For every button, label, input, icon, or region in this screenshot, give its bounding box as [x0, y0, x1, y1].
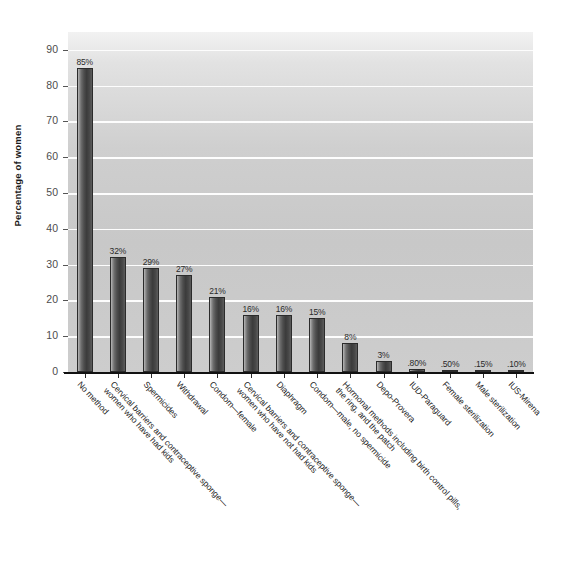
bar-value-label: .15% [474, 359, 493, 369]
x-axis-tick-label: No method [75, 380, 110, 417]
gridline [68, 157, 533, 159]
bar-value-label: 32% [110, 246, 126, 256]
bar-value-label: .10% [507, 359, 526, 369]
bar [342, 343, 358, 372]
bar [110, 257, 126, 372]
y-axis-tick-mark [63, 193, 68, 194]
x-axis-tick-mark [417, 374, 418, 378]
bar-value-label: .50% [441, 359, 460, 369]
x-axis-tick-mark [118, 374, 119, 378]
bar-chart: Percentage of women 0102030405060708090 … [0, 0, 575, 570]
x-axis-tick-mark [151, 374, 152, 378]
gridline [68, 300, 533, 302]
bar [409, 369, 425, 372]
y-axis-tick-label: 60 [0, 150, 58, 162]
y-axis-tick-label: 20 [0, 293, 58, 305]
y-axis-tick-mark [63, 265, 68, 266]
x-axis-tick-mark [251, 374, 252, 378]
y-axis-tick-mark [63, 121, 68, 122]
bar [309, 318, 325, 372]
x-axis-tick-mark [184, 374, 185, 378]
y-axis-tick-mark [63, 86, 68, 87]
bar-value-label: 3% [378, 350, 390, 360]
y-axis-tick-mark [63, 157, 68, 158]
y-axis-tick-mark [63, 50, 68, 51]
y-axis-tick-label: 40 [0, 222, 58, 234]
y-axis-tick-label: 30 [0, 258, 58, 270]
x-axis-tick-mark [450, 374, 451, 378]
x-axis-tick-label: Withdrawal [174, 380, 209, 417]
bar-value-label: 27% [176, 264, 192, 274]
bar [243, 315, 259, 372]
bar [77, 68, 93, 372]
bar [176, 275, 192, 372]
bar-value-label: 85% [76, 57, 92, 67]
y-axis-tick-mark [63, 336, 68, 337]
x-axis-tick-mark [317, 374, 318, 378]
y-axis-tick-mark [63, 229, 68, 230]
bar-value-label: 16% [276, 304, 292, 314]
bar [376, 361, 392, 372]
x-axis-tick-mark [384, 374, 385, 378]
gridline [68, 86, 533, 88]
gridline [68, 50, 533, 52]
y-axis-tick-label: 50 [0, 186, 58, 198]
bar-value-label: 15% [309, 307, 325, 317]
bar-value-label: 21% [209, 286, 225, 296]
gridline [68, 229, 533, 231]
y-axis-tick-mark [63, 300, 68, 301]
x-axis-line [64, 372, 534, 374]
x-axis-tick-mark [217, 374, 218, 378]
x-axis-tick-mark [516, 374, 517, 378]
bar-value-label: 29% [143, 257, 159, 267]
bar-value-label: .80% [407, 358, 426, 368]
x-axis-tick-mark [350, 374, 351, 378]
x-axis-tick-label: Diaphragm [274, 380, 309, 417]
y-axis-tick-label: 10 [0, 329, 58, 341]
bar [442, 370, 458, 373]
x-axis-tick-mark [284, 374, 285, 378]
bar [276, 315, 292, 372]
bar-value-label: 16% [242, 304, 258, 314]
bar [475, 370, 491, 373]
bar [143, 268, 159, 372]
y-axis-tick-label: 70 [0, 114, 58, 126]
gridline [68, 265, 533, 267]
y-axis-tick-label: 90 [0, 43, 58, 55]
x-axis-tick-mark [85, 374, 86, 378]
bar-value-label: 8% [344, 332, 356, 342]
bar [209, 297, 225, 372]
x-axis-tick-mark [483, 374, 484, 378]
y-axis-tick-label: 80 [0, 79, 58, 91]
gridline [68, 193, 533, 195]
bar [508, 370, 524, 373]
gridline [68, 121, 533, 123]
plot-area [68, 32, 533, 372]
gridline [68, 336, 533, 338]
y-axis-tick-label: 0 [0, 365, 58, 377]
